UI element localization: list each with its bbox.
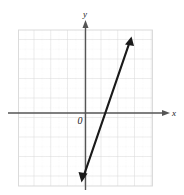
origin-label: 0 [78,115,83,126]
y-axis-label: y [82,9,87,19]
x-axis-label: x [171,108,176,118]
coordinate-plane: x y 0 [0,0,184,195]
graph-figure: x y 0 [0,0,184,195]
